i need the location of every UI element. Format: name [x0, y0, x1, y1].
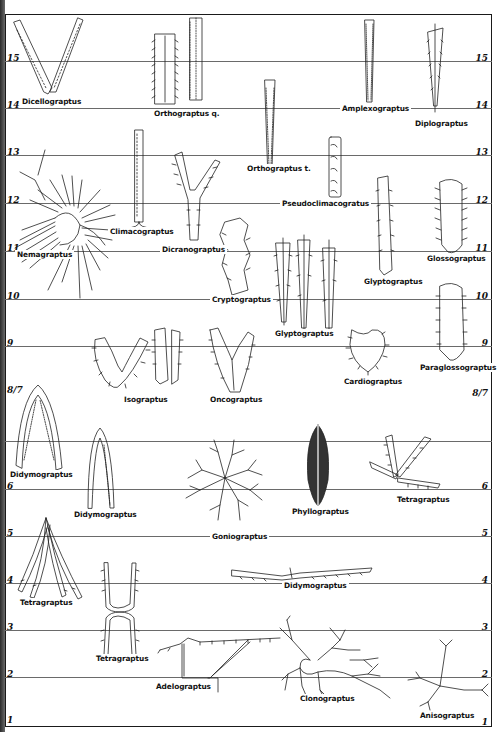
specimen-label: Didymograptus [282, 581, 349, 590]
specimen-label: Cardiograptus [342, 377, 404, 386]
diplograptus-drawing [427, 24, 443, 112]
oncograptus-drawing [209, 328, 255, 392]
specimen-label: Glyptograptus [362, 277, 424, 286]
specimen-label: Tetragraptus [94, 654, 150, 663]
specimen-label: Phyllograptus [290, 507, 351, 516]
specimen-label: Dicranograptus [160, 245, 227, 254]
clonograptus-drawing [280, 616, 390, 700]
specimen-label: Oncograptus [208, 395, 264, 404]
pseudoclimacograptus-drawing [329, 137, 341, 197]
tetragraptus-upper-drawing [370, 435, 440, 489]
specimen-label: Cryptograptus [210, 295, 273, 304]
specimen-label: Glossograptus [425, 254, 488, 263]
phyllograptus-drawing [307, 425, 328, 506]
cardiograptus-drawing [346, 330, 389, 375]
didymograptus-upper-drawing [16, 385, 62, 470]
tetragraptus-middle-drawing [18, 518, 82, 599]
orthograptus-t-drawing [265, 80, 275, 168]
cryptograptus-drawing [220, 218, 250, 295]
specimen-label: Orthograptus t. [245, 164, 313, 173]
specimen-label: Tetragraptus [18, 598, 74, 607]
orthograptus-q-drawing [152, 18, 202, 104]
specimen-label: Clonograptus [298, 694, 357, 703]
glossograptus-drawing [435, 179, 467, 252]
dicranograptus-drawing [172, 152, 220, 240]
anisograptus-drawing [408, 640, 488, 710]
dicellograptus-drawing [14, 18, 83, 94]
specimen-label: Didymograptus [8, 470, 75, 479]
didymograptus-lower-drawing [232, 568, 372, 581]
specimen-label: Amplexograptus [340, 104, 411, 113]
specimen-label: Anisograptus [418, 711, 476, 720]
nemagraptus-drawing [15, 150, 115, 298]
specimen-label: Diplograptus [413, 119, 470, 128]
specimen-label: Isograptus [122, 395, 170, 404]
tetragraptus-lower-drawing [101, 563, 139, 655]
specimen-label: Nemagraptus [15, 250, 74, 259]
specimen-label: Glyptograptus [273, 329, 335, 338]
amplexograptus-drawing [365, 20, 374, 102]
isograptus-drawing [92, 328, 183, 388]
climacograptus-drawing [125, 130, 153, 228]
goniograptus-drawing [186, 440, 262, 520]
glyptograptus-upper-drawing [376, 176, 394, 275]
specimen-label: Paraglossograptus [418, 363, 498, 372]
specimen-label: Pseudoclimacogratus [280, 199, 371, 208]
specimen-label: Tetragraptus [395, 495, 451, 504]
specimen-label: Adelograptus [154, 682, 213, 691]
glyptograptus-lower-drawing [274, 235, 337, 332]
specimen-label: Orthograptus q. [152, 109, 221, 118]
specimen-label: Dicellograptus [20, 97, 83, 106]
paraglossograptus-drawing [436, 283, 467, 360]
specimen-label: Climacograptus [108, 227, 176, 236]
specimen-label: Didymograptus [72, 510, 139, 519]
specimen-label: Goniograptus [210, 532, 269, 541]
didymograptus-middle-drawing [88, 428, 114, 508]
